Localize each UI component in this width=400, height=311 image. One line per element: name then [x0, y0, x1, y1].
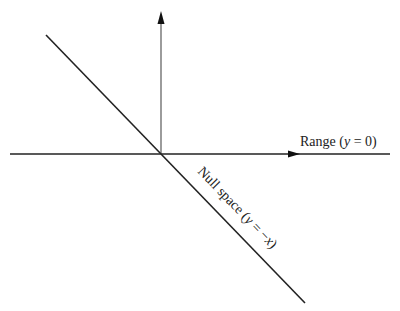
null-space-line [46, 35, 305, 303]
diagram-canvas: Range (y = 0) Null space (y = −x) [0, 0, 400, 311]
null-space-label: Null space (y = −x) [194, 164, 280, 253]
vertical-arrowhead-icon [158, 11, 165, 24]
range-arrowhead-icon [288, 151, 300, 158]
diagram-svg: Range (y = 0) Null space (y = −x) [0, 0, 400, 311]
range-label: Range (y = 0) [300, 134, 377, 150]
